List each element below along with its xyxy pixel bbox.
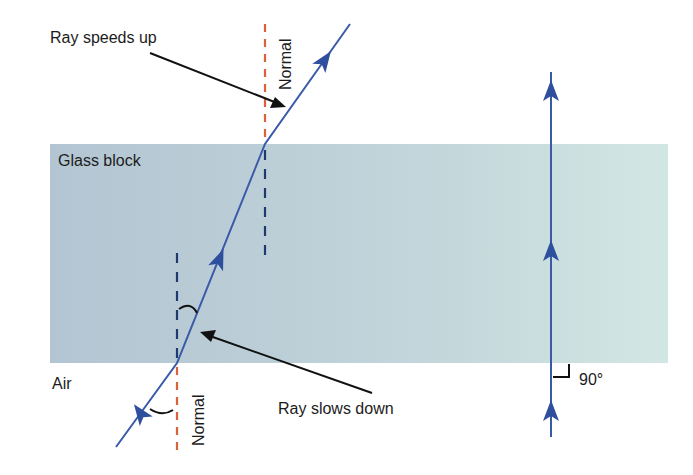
right-angle-marker (553, 364, 569, 377)
refraction-diagram: Ray speeds up Glass block Air Ray slows … (0, 0, 693, 475)
arrowhead-icon (312, 47, 337, 73)
label-normal-bottom: Normal (190, 394, 207, 446)
label-normal-top: Normal (277, 38, 294, 90)
label-ray-slows-down: Ray slows down (278, 400, 394, 417)
label-glass-block: Glass block (58, 152, 142, 169)
angle-of-incidence-arc (150, 409, 173, 413)
label-air: Air (52, 375, 72, 392)
label-ray-speeds-up: Ray speeds up (50, 29, 157, 46)
label-right-angle: 90° (579, 371, 603, 388)
glass-block (50, 144, 668, 363)
arrowhead-icon (127, 400, 152, 426)
